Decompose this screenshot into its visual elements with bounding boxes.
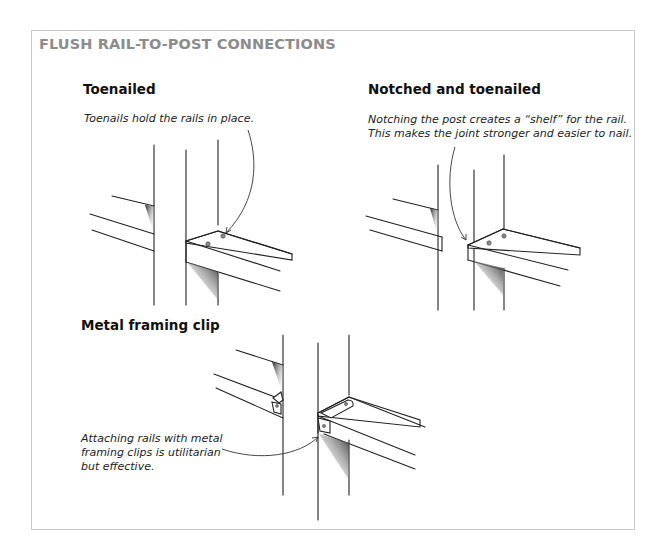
illustration-notched [366,147,580,310]
illustrations [0,0,671,557]
illustration-toenailed [90,130,292,305]
illustration-metal-clip [214,335,425,520]
